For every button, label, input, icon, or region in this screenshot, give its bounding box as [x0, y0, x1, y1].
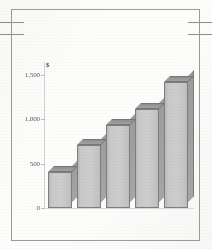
y-axis-tick — [41, 164, 45, 165]
chart-page: $ 1,5001,0005000 — [0, 0, 212, 249]
x-axis-baseline — [44, 208, 194, 209]
y-axis-tick-label: 1,000 — [12, 115, 40, 123]
bar-front-face — [106, 125, 130, 208]
y-axis-tick-label: 500 — [12, 160, 40, 168]
bar-2[interactable] — [77, 139, 101, 208]
bar-side-face — [188, 70, 194, 202]
y-axis-tick — [41, 119, 45, 120]
bar-5[interactable] — [164, 76, 188, 208]
y-axis-tick-label-wrap: 0 — [10, 204, 40, 212]
plot-area: $ 1,5001,0005000 — [0, 0, 212, 249]
y-axis-line — [44, 62, 45, 209]
y-axis-tick — [41, 208, 45, 209]
currency-unit-label: $ — [46, 61, 50, 69]
y-axis-tick — [41, 75, 45, 76]
bar-front-face — [164, 82, 188, 208]
bar-front-face — [77, 145, 101, 208]
bar-1[interactable] — [48, 166, 72, 208]
bar-4[interactable] — [135, 103, 159, 208]
y-axis-tick-label: 0 — [12, 204, 40, 212]
y-axis-tick-label-wrap: 500 — [10, 160, 40, 168]
y-axis-tick-label-wrap: 1,000 — [10, 115, 40, 123]
bar-front-face — [135, 109, 159, 208]
bar-3[interactable] — [106, 119, 130, 208]
y-axis-tick-label-wrap: 1,500 — [10, 71, 40, 79]
y-axis-tick-label: 1,500 — [12, 71, 40, 79]
bar-front-face — [48, 172, 72, 208]
